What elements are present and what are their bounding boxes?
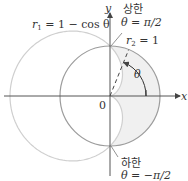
upper-leader xyxy=(111,33,122,46)
origin-label: 0 xyxy=(99,99,106,112)
cardioid-label: r1 = 1 − cos θ xyxy=(32,18,110,32)
lower-leader xyxy=(111,146,118,157)
polar-diagram: y x 0 상한 θ = π/2 하한 θ = −π/2 θ r1 = 1 − … xyxy=(0,0,188,181)
upper-limit-title: 상한 xyxy=(123,3,143,16)
y-axis-label: y xyxy=(104,2,112,15)
circle-label: r2 = 1 xyxy=(126,34,159,48)
lower-limit-expr: θ = −π/2 xyxy=(121,169,171,181)
lower-limit-title: 하한 xyxy=(121,156,141,170)
x-axis-label: x xyxy=(181,90,188,103)
angle-label: θ xyxy=(134,68,141,81)
upper-limit-expr: θ = π/2 xyxy=(121,16,162,29)
